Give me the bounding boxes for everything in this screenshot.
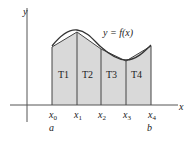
trapezoid-label-t3: T3 — [106, 69, 117, 80]
x-tick-labels: x0 x1 x2 x3 x4 — [48, 109, 156, 122]
trapezoid-label-t1: T1 — [58, 69, 69, 80]
curve-label: y = f(x) — [102, 27, 134, 39]
y-axis-label: y — [22, 6, 28, 17]
trapezoid-label-t4: T4 — [131, 69, 142, 80]
svg-text:x2: x2 — [97, 109, 106, 122]
trapezoid-label-t2: T2 — [82, 69, 93, 80]
label-a: a — [49, 122, 54, 133]
x-axis-label: x — [178, 101, 184, 112]
svg-text:x4: x4 — [147, 109, 156, 122]
svg-text:x0: x0 — [48, 109, 57, 122]
svg-text:x3: x3 — [122, 109, 131, 122]
svg-text:x1: x1 — [73, 109, 82, 122]
trapezoid-diagram: y x y = f(x) T1 T2 T3 T4 x0 x1 x2 x3 x4 … — [0, 0, 192, 141]
label-b: b — [147, 122, 152, 133]
